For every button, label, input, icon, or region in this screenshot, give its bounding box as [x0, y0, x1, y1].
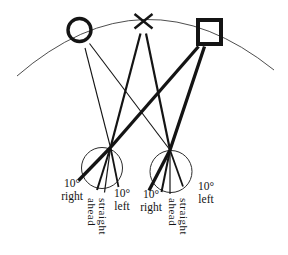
diagram-drawing — [0, 0, 288, 255]
right-eye-10-left-word: left — [186, 193, 226, 206]
right-retina-10-left-line — [170, 150, 183, 187]
left-eye-sightlines — [79, 34, 199, 193]
right-eye-ahead-word: ahead — [166, 198, 178, 235]
cross-target-icon — [135, 14, 153, 29]
visual-direction-diagram: 10° right straight ahead 10° left 10° ri… — [0, 0, 288, 255]
left-eye-10-right-degrees: 10° — [50, 177, 94, 190]
circle-target-icon — [68, 19, 91, 42]
right-eye-to-cross-line — [146, 34, 170, 151]
screen-arc — [17, 19, 274, 76]
left-retina-10-left-line — [111, 148, 119, 188]
square-target-icon — [198, 20, 221, 44]
left-eye-to-circle-line — [85, 48, 111, 148]
left-eye-ahead-word: ahead — [85, 198, 97, 235]
right-eye-to-square-line — [170, 47, 205, 151]
right-eye-10-left-degrees: 10° — [186, 180, 226, 193]
right-eye-10-left-label: 10° left — [186, 180, 226, 206]
